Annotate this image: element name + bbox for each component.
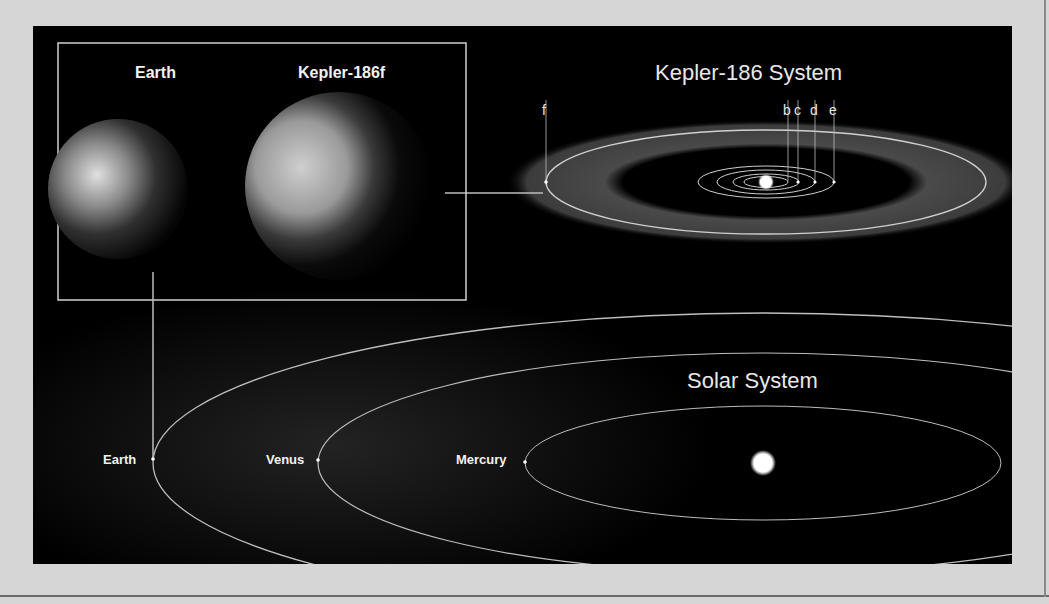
earth-label: Earth [135,64,176,82]
venus-orbit-label: Venus [266,452,304,467]
planet-d-label: d [810,102,818,118]
kepler-186f-globe [245,92,433,280]
frame-border-right [1044,0,1046,597]
solar-system-title: Solar System [687,368,818,394]
mercury-orbit-label: Mercury [456,452,507,467]
planet-c-label: c [794,102,801,118]
planet-b-label: b [783,102,791,118]
planet-e-label: e [829,102,837,118]
diagram-graphics [33,26,1012,564]
earth-globe [48,119,188,259]
earth-orbit-label: Earth [103,452,136,467]
planet-f-label: f [542,102,546,118]
diagram-frame: Earth Kepler-186f Kepler-186 System f b … [0,0,1049,604]
sun-icon [750,450,776,476]
frame-border-bottom [0,595,1049,597]
kepler-system-title: Kepler-186 System [655,60,842,86]
space-panel: Earth Kepler-186f Kepler-186 System f b … [33,26,1012,564]
kepler-186f-label: Kepler-186f [298,64,385,82]
